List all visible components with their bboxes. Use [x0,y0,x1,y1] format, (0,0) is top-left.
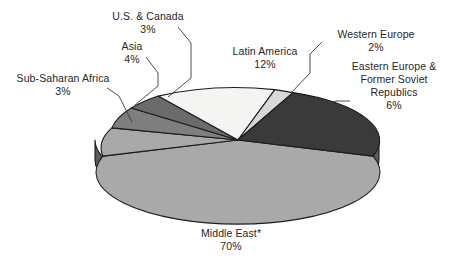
label-eastern-europe-line1: Eastern Europe & [352,60,436,72]
label-latin-america-pct: 12% [254,58,275,70]
label-eastern-europe-pct: 6% [386,99,401,111]
label-western-europe-pct: 2% [368,41,383,53]
pie-top-face [96,88,380,225]
label-middle-east-name: Middle East* [201,227,261,239]
label-sub-saharan-africa-name: Sub-Saharan Africa [17,72,110,84]
label-middle-east-pct: 70% [220,240,241,252]
label-us-canada-pct: 3% [140,23,155,35]
label-eastern-europe-line2: Former Soviet [360,73,427,85]
label-eastern-europe-line3: Republics [370,86,417,98]
label-western-europe-name: Western Europe [337,28,414,40]
pie-chart: U.S. & Canada 3% Asia 4% Sub-Saharan Afr… [0,0,458,264]
label-asia-pct: 4% [124,53,139,65]
label-us-canada-name: U.S. & Canada [112,10,183,22]
label-asia: Asia 4% [122,40,143,65]
pie-chart-svg: U.S. & Canada 3% Asia 4% Sub-Saharan Afr… [0,0,458,264]
label-asia-name: Asia [122,40,143,52]
label-latin-america-name: Latin America [233,45,298,57]
label-sub-saharan-africa-pct: 3% [55,85,70,97]
